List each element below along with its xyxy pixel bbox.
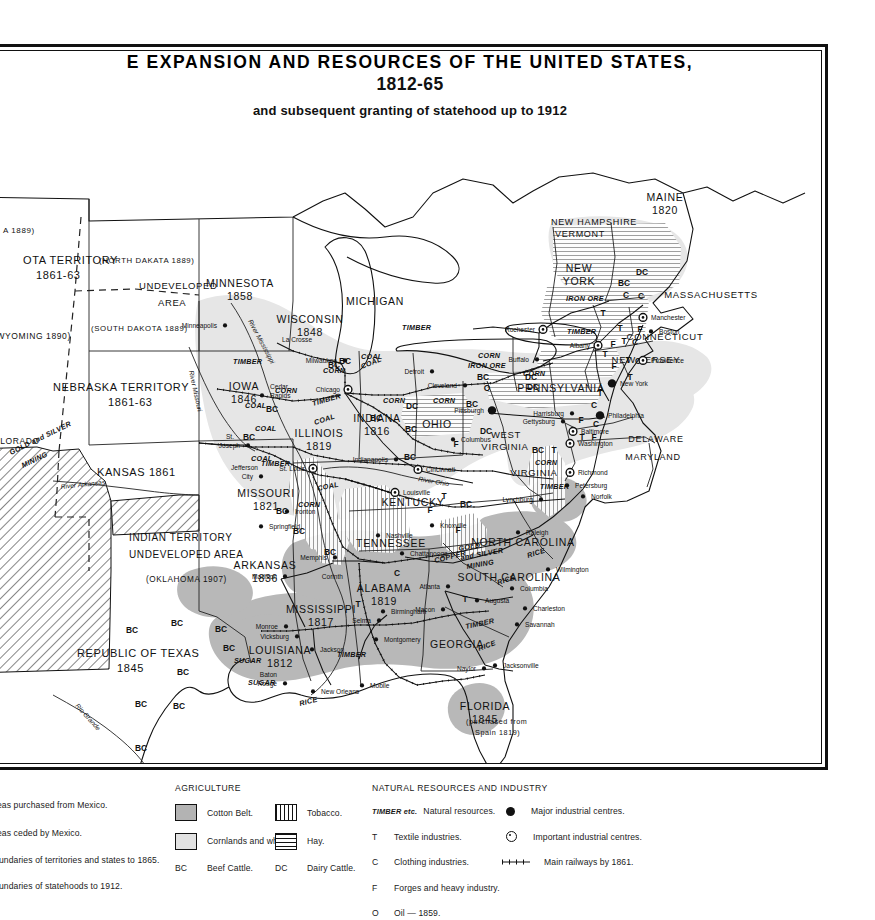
city-label: Raleigh [526,529,549,537]
legend-item: Tobacco. [275,804,375,821]
city-label: Memphis [300,554,327,562]
city-marker [430,523,434,527]
city-label: Jefferson [231,464,258,471]
territory-label: A 1889) [3,226,35,235]
map-svg: A 1889)OTA TERRITORY1861-63(NORTH DAKATA… [0,51,822,764]
industry-letter: BC [126,625,138,635]
important-industrial-centre-dot [569,471,572,474]
city-label: Rouge [258,680,278,688]
scale-bar: Miles 0100200300400500 [596,763,811,764]
city-marker [430,369,434,373]
legend-item-label: Oil — 1859. [394,908,440,918]
state-label: KENTUCKY [382,496,445,508]
city-label: Nashville [386,532,413,539]
territory-label: AREA [158,297,186,308]
city-label: Buffalo [509,356,530,363]
industry-letter: T [617,323,623,333]
legend-item-label: Textile industries. [394,832,462,842]
important-industrial-centre-dot [642,359,645,362]
territory-label: (OKLAHOMA 1907) [146,575,227,584]
light-gray-swatch-icon [175,833,197,850]
industry-letter: BC [223,643,235,653]
city-marker [493,663,497,667]
city-label: St. Louis [279,465,305,472]
state-label: YORK [563,275,596,287]
resource-label: TIMBER [402,323,432,332]
industry-letter: O [484,383,491,393]
map-title-block: E EXPANSION AND RESOURCES OF THE UNITED … [0,52,820,118]
industry-letter: T [355,599,361,609]
city-label: Corinth [322,573,344,580]
city-label: Monroe [256,623,279,630]
legend-item-label: Forges and heavy industry. [394,883,500,893]
legend-item-label: Cotton Belt. [207,808,253,818]
territory-label: (NORTH DAKATA 1889) [99,256,194,265]
territory-label: (SOUTH DAKOTA 1889) [91,324,188,333]
map-frame: A 1889)OTA TERRITORY1861-63(NORTH DAKATA… [0,44,828,770]
state-label: DELAWARE [628,434,683,444]
industry-letter: F [611,361,616,371]
legend-boundaries-list: reas purchased from Mexico.reas ceded by… [0,796,177,893]
major-industrial-centre-marker [608,379,616,387]
legend-item: TTextile industries. [372,830,502,844]
city-marker [394,457,398,461]
resource-label: TIMBER [567,327,597,336]
resource-label: COAL [245,401,267,410]
city-label: Montgomery [384,636,421,644]
city-label: Rapids [270,392,291,400]
city-marker [283,574,287,578]
important-industrial-centre-dot [642,316,645,319]
city-label: Columbus [461,436,491,443]
resource-label: CORN [478,351,501,360]
industry-letter: BC [460,499,472,509]
industry-letter: C [623,290,629,300]
city-label: Selma [352,617,371,624]
city-marker [565,483,569,487]
legend-item-label: Main railways by 1861. [544,857,634,867]
city-label: Petersburg [575,482,608,490]
legend-agriculture-left: Cotton Belt.Cornlands and wheat.BCBeef C… [175,804,275,887]
important-industrial-centre-dot [569,442,572,445]
legend-heading-agriculture: AGRICULTURE [175,783,375,793]
state-label: IOWA [229,380,259,392]
state-label: ALABAMA [357,582,412,594]
scale-bar-label: Miles [596,763,811,764]
city-label: Mobile [370,682,390,689]
legend-item: Cotton Belt. [175,804,275,821]
legend-item-label: reas ceded by Mexico. [0,828,82,838]
city-marker [515,622,519,626]
industry-letter: DC [527,382,539,392]
territory-label: 1845 [117,662,144,674]
city-marker [374,637,378,641]
city-label: Louisville [403,489,430,496]
city-label: Harrisburg [533,410,564,418]
state-year-label: 1817 [308,616,334,628]
city-marker [570,411,574,415]
state-year-label: 1819 [371,595,397,607]
important-industrial-centre-dot [572,430,575,433]
city-label: Baltimore [581,428,609,435]
city-label: Gettysburg [523,418,556,426]
state-label: VERMONT [555,229,605,239]
city-label: Milwaukee [306,357,337,364]
city-marker [649,329,653,333]
legend-item-label: Tobacco. [307,808,342,818]
legend-column-boundaries: reas purchased from Mexico.reas ceded by… [0,783,177,904]
territory-label: Spain 1819) [475,728,520,737]
territory-label: INDIAN TERRITORY [129,532,233,543]
city-label: Jacksonville [503,662,539,669]
state-label: FLORIDA [460,700,510,712]
major-industrial-centre-icon [506,807,515,816]
city-marker [446,584,450,588]
legend-item-label: Natural resources. [423,806,495,816]
city-label: Joseph [219,442,241,450]
territory-label: REPUBLIC OF TEXAS [77,647,199,659]
state-label: MAINE [647,191,684,203]
state-label: MASSACHUSETTS [664,289,758,300]
legend-item: DCDairy Cattle. [275,861,375,875]
city-label: Indianapolis [353,456,389,464]
major-industrial-centre-marker [488,406,496,414]
industry-letter: BC [135,699,147,709]
railway-line-icon [502,857,530,867]
state-label: LOUISIANA [249,644,311,656]
